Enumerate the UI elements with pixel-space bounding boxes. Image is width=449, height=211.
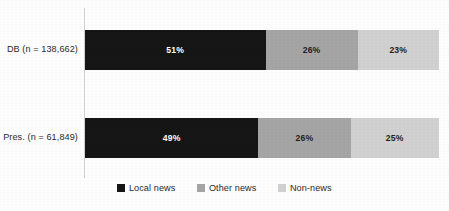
bar-segment-db-other-news[interactable]: 26%: [266, 30, 358, 70]
bar-segment-db-non-news[interactable]: 23%: [358, 30, 439, 70]
legend-item-local-news[interactable]: Local news: [117, 183, 175, 193]
bar-segment-label: 23%: [389, 45, 407, 55]
legend-item-label: Local news: [129, 183, 176, 193]
bar-segment-pres-local-news[interactable]: 49%: [85, 118, 258, 158]
legend-item-other-news[interactable]: Other news: [197, 183, 256, 193]
bar-segment-label: 26%: [296, 133, 314, 143]
category-label-pres: Pres. (n = 61,849): [0, 132, 78, 143]
bar-segment-pres-other-news[interactable]: 26%: [258, 118, 350, 158]
chart-legend: Local news Other news Non-news: [0, 183, 449, 193]
legend-swatch-icon: [197, 184, 205, 192]
category-label-db: DB (n = 138,662): [0, 44, 78, 55]
bar-segment-pres-non-news[interactable]: 25%: [351, 118, 440, 158]
bar-row-db: 51% 26% 23%: [85, 30, 439, 70]
legend-item-label: Other news: [209, 183, 257, 193]
stacked-bar-chart: DB (n = 138,662) Pres. (n = 61,849) 51% …: [0, 0, 449, 211]
bar-segment-label: 49%: [163, 133, 181, 143]
legend-swatch-icon: [117, 184, 125, 192]
bar-segment-label: 25%: [386, 133, 404, 143]
legend-item-label: Non-news: [290, 183, 332, 193]
legend-item-non-news[interactable]: Non-news: [278, 183, 331, 193]
plot-area: 51% 26% 23% 49% 26% 25%: [85, 8, 439, 178]
bar-segment-db-local-news[interactable]: 51%: [85, 30, 266, 70]
legend-swatch-icon: [278, 184, 286, 192]
bar-segment-label: 26%: [303, 45, 321, 55]
bar-segment-label: 51%: [166, 45, 184, 55]
bar-row-pres: 49% 26% 25%: [85, 118, 439, 158]
